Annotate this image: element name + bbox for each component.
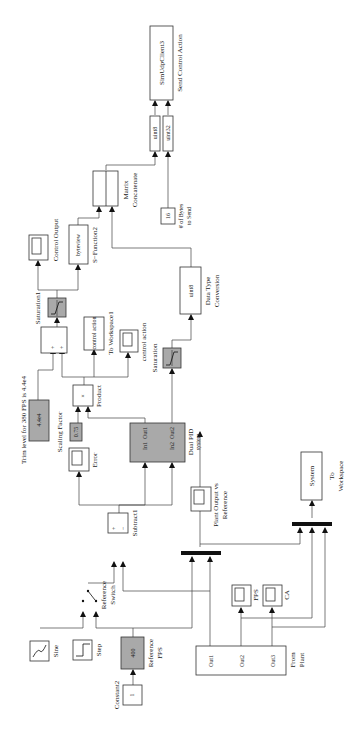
svg-text:Scaling Factor: Scaling Factor xyxy=(56,411,64,452)
svg-text:In1: In1 xyxy=(142,442,148,450)
plant-output-scope[interactable]: Plant Output vs Reference xyxy=(191,483,229,527)
reference-fps-gain[interactable]: 400 Reference FPS xyxy=(121,637,164,669)
svg-text:System: System xyxy=(308,465,316,486)
svg-text:Plant Output vs: Plant Output vs xyxy=(212,483,220,527)
subtract1-block[interactable]: + − Subtract1 xyxy=(108,509,139,536)
data-type-conversion-block[interactable]: uint8 Data Type Conversion xyxy=(180,267,221,314)
svg-text:4.4e4: 4.4e4 xyxy=(36,413,42,426)
error-scope[interactable]: Error xyxy=(69,448,99,471)
svg-text:Conversion: Conversion xyxy=(213,274,221,307)
svg-text:Step: Step xyxy=(95,643,103,656)
svg-text:Out3: Out3 xyxy=(270,655,276,667)
ca-scope[interactable]: CA xyxy=(263,585,291,606)
svg-text:CA: CA xyxy=(283,590,291,600)
svg-text:Subtract1: Subtract1 xyxy=(131,509,139,536)
svg-text:# of Bytes: # of Bytes xyxy=(178,203,184,228)
svg-text:1: 1 xyxy=(129,694,135,697)
svg-text:Reference: Reference xyxy=(100,581,108,609)
svg-text:0.75: 0.75 xyxy=(73,427,79,438)
svg-text:To: To xyxy=(328,472,336,480)
svg-text:Plant: Plant xyxy=(298,653,306,667)
svg-text:400: 400 xyxy=(130,649,136,658)
svg-text:Dual PID: Dual PID xyxy=(187,429,195,456)
svg-text:system: system xyxy=(195,433,201,450)
svg-text:Workspace: Workspace xyxy=(337,461,345,492)
svg-text:S−Function2: S−Function2 xyxy=(91,226,99,263)
svg-text:FPS: FPS xyxy=(156,647,164,659)
svg-text:Product: Product xyxy=(95,385,103,407)
svg-text:From: From xyxy=(289,652,297,668)
byteview-sfunction-block[interactable]: byteview S−Function2 xyxy=(69,225,99,264)
svg-text:FPS: FPS xyxy=(252,589,260,601)
svg-text:control action: control action xyxy=(140,322,148,361)
mux-bus-2 xyxy=(292,522,332,526)
saturation1-block[interactable]: Saturation1 xyxy=(34,291,66,324)
svg-text:×: × xyxy=(80,394,86,397)
svg-text:Sine: Sine xyxy=(52,645,60,657)
svg-text:In2: In2 xyxy=(169,442,175,450)
svg-text:SimUdpClient3: SimUdpClient3 xyxy=(158,41,166,85)
svg-text:to Send: to Send xyxy=(186,207,192,225)
control-action-scope[interactable]: control action xyxy=(120,322,148,361)
sine-source[interactable]: Sine xyxy=(30,641,60,661)
matrix-concatenate-block[interactable]: Matrix Concatenate xyxy=(93,171,139,207)
from-plant-subsystem[interactable]: Out1 Out2 Out3 From Plant xyxy=(196,646,306,675)
mux-bus-1 xyxy=(181,551,221,555)
svg-text:control action: control action xyxy=(91,316,97,349)
svg-text:To Workspace1: To Workspace1 xyxy=(107,311,115,355)
svg-text:Concatenate: Concatenate xyxy=(131,173,139,208)
svg-text:uint8: uint8 xyxy=(152,127,158,139)
udp-client-label: Send Control Action xyxy=(176,34,184,92)
svg-text:Trim level for 380 FPS is 4.4e: Trim level for 380 FPS is 4.4e4 xyxy=(20,375,28,464)
svg-text:Out2: Out2 xyxy=(239,655,245,667)
product-block[interactable]: × Product xyxy=(73,385,103,407)
reference-switch[interactable]: Reference Switch xyxy=(82,581,117,609)
svg-text:uint8: uint8 xyxy=(188,285,194,297)
step-source[interactable]: Step xyxy=(73,640,103,660)
svg-text:Out1: Out1 xyxy=(142,427,148,439)
svg-text:byteview: byteview xyxy=(75,233,81,256)
svg-text:Reference: Reference xyxy=(147,639,155,667)
svg-text:Saturation: Saturation xyxy=(151,343,159,372)
uint32-cast-block[interactable]: uint32 xyxy=(163,116,173,151)
dual-pid-subsystem[interactable]: In1 Out1 In2 Out2 Dual PID system xyxy=(130,423,201,462)
sum-block[interactable]: + + xyxy=(41,327,67,353)
svg-text:Data Type: Data Type xyxy=(204,277,212,306)
simulink-diagram: SimUdpClient3 Send Control Action uint8 … xyxy=(0,0,361,731)
udp-client-block[interactable]: SimUdpClient3 Send Control Action xyxy=(150,26,184,100)
svg-text:Reference: Reference xyxy=(221,491,229,519)
svg-text:Out1: Out1 xyxy=(208,655,214,667)
to-workspace1-block[interactable]: control action To Workspace1 xyxy=(84,311,115,355)
bytes-to-send-constant[interactable]: 16 # of Bytes to Send xyxy=(161,203,192,228)
to-workspace-block[interactable]: System To Workspace xyxy=(301,452,345,500)
svg-text:16: 16 xyxy=(165,213,171,219)
uint8-cast-block[interactable]: uint8 xyxy=(150,116,160,151)
svg-text:Control Output: Control Output xyxy=(52,219,60,262)
svg-text:Error: Error xyxy=(91,452,99,467)
svg-text:Switch: Switch xyxy=(109,585,117,605)
svg-text:Saturation1: Saturation1 xyxy=(34,291,42,324)
trim-level-constant[interactable]: 4.4e4 Trim level for 380 FPS is 4.4e4 xyxy=(20,375,49,464)
svg-text:Constant2: Constant2 xyxy=(113,680,121,709)
svg-text:uint32: uint32 xyxy=(165,125,171,140)
fps-scope[interactable]: FPS xyxy=(232,585,260,606)
svg-text:Matrix: Matrix xyxy=(122,180,130,200)
svg-text:Out2: Out2 xyxy=(169,427,175,439)
control-output-scope[interactable]: Control Output xyxy=(29,219,60,262)
constant2-block[interactable]: 1 Constant2 xyxy=(113,680,142,709)
saturation-block[interactable]: Saturation xyxy=(151,343,181,372)
